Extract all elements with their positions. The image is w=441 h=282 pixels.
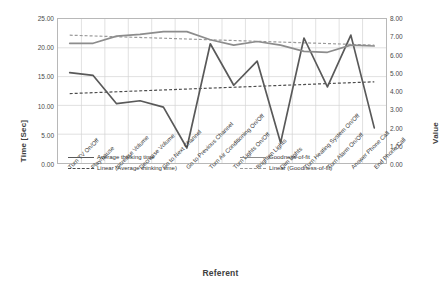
legend-label: Average thinking time: [97, 154, 155, 160]
legend-swatch-dashed-dark-icon: [68, 168, 94, 169]
y-axis-left-tick-label: 15.00: [18, 73, 54, 80]
x-axis-category-labels: Turn TV On/OffPlay/pauseIncrease VolumeD…: [57, 166, 387, 248]
legend-item-average-thinking-time: Average thinking time: [68, 154, 155, 160]
y-axis-left-ticks: 0.005.0010.0015.0020.0025.00: [18, 18, 54, 164]
legend-item-linear-goodness-of-fit: Linear (Goodness-of-fit): [240, 165, 332, 171]
y-axis-right-tick-label: 3.00: [390, 106, 430, 113]
legend-swatch-dashed-light-icon: [240, 168, 266, 169]
y-axis-left-tick-label: 5.00: [18, 131, 54, 138]
plot-svg: [58, 19, 386, 163]
y-axis-right-tick-label: 7.00: [390, 33, 430, 40]
x-axis-title: Referent: [0, 268, 441, 278]
legend-item-goodness-of-fit: Goodness-of-fit: [240, 154, 310, 160]
chart-container: Time [Sec] Value 0.005.0010.0015.0020.00…: [0, 0, 441, 282]
y-axis-right-tick-label: 8.00: [390, 15, 430, 22]
y-axis-left-tick-label: 25.00: [18, 15, 54, 22]
legend-item-linear-average-thinking-time: Linear (Average thinking time): [68, 165, 177, 171]
y-axis-left-tick-label: 0.00: [18, 161, 54, 168]
legend-swatch-solid-light-icon: [240, 157, 266, 158]
y-axis-right-tick-label: 4.00: [390, 88, 430, 95]
chart-legend: Average thinking time Linear (Average th…: [68, 154, 378, 176]
y-axis-right-title: Value: [432, 122, 441, 144]
y-axis-right-tick-label: 2.00: [390, 124, 430, 131]
plot-area: [57, 18, 387, 164]
legend-swatch-solid-dark-icon: [68, 157, 94, 158]
legend-label: Goodness-of-fit: [269, 154, 310, 160]
y-axis-right-tick-label: 5.00: [390, 69, 430, 76]
y-axis-right-tick-label: 0.00: [390, 161, 430, 168]
y-axis-left-tick-label: 20.00: [18, 44, 54, 51]
y-axis-left-tick-label: 10.00: [18, 102, 54, 109]
y-axis-right-tick-label: 6.00: [390, 51, 430, 58]
legend-label: Linear (Average thinking time): [97, 165, 177, 171]
legend-label: Linear (Goodness-of-fit): [269, 165, 332, 171]
